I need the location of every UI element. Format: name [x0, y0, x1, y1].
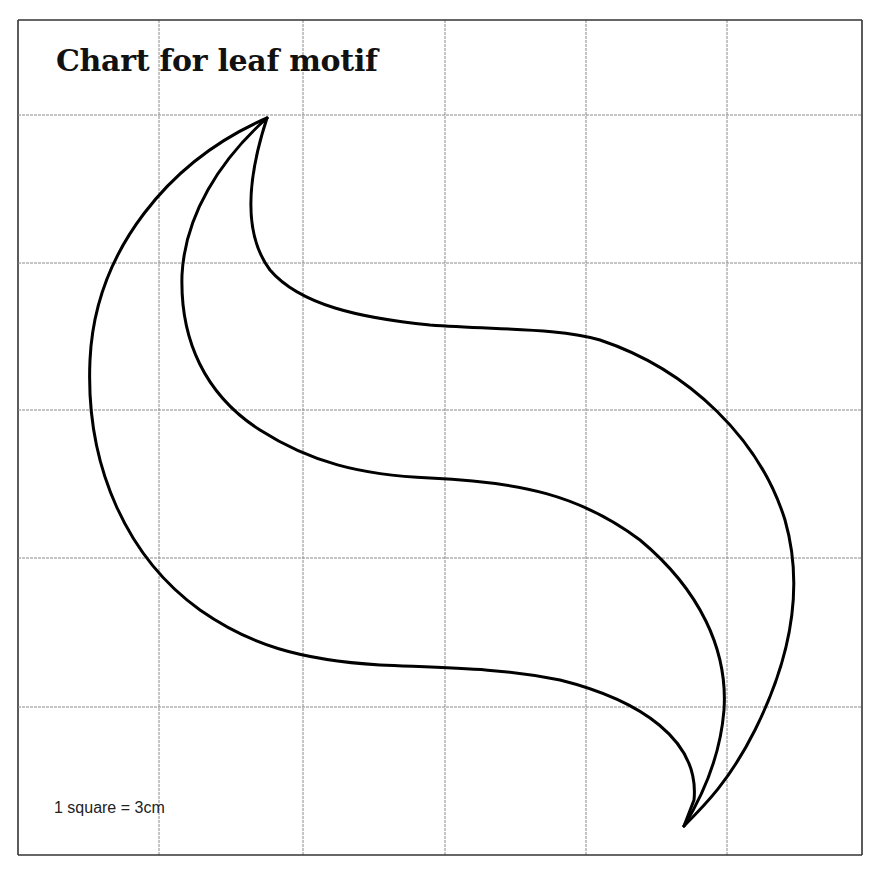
scale-note: 1 square = 3cm: [54, 799, 165, 817]
motif-curve-outer-edge: [90, 118, 695, 826]
leaf-motif-chart: [0, 0, 881, 874]
leaf-motif: [90, 118, 794, 826]
chart-title: Chart for leaf motif: [56, 43, 378, 78]
grid: [18, 20, 862, 855]
motif-curve-middle-vein: [182, 118, 724, 826]
motif-curve-inner-edge: [251, 118, 794, 826]
